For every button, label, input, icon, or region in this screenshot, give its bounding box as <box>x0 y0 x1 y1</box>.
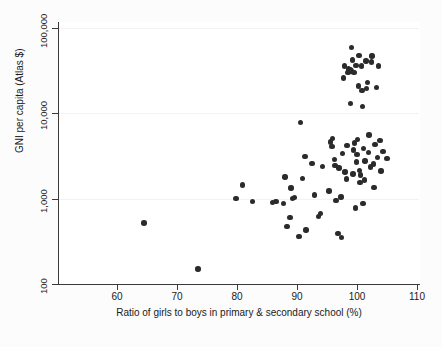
data-point <box>362 177 367 182</box>
x-tick-label-60: 60 <box>97 291 137 302</box>
y-axis-title: GNI per capita (Atlas $) <box>14 49 25 153</box>
data-point <box>375 155 380 160</box>
data-point <box>302 154 307 159</box>
data-point <box>359 63 364 68</box>
y-tick-10000 <box>52 113 58 114</box>
data-point <box>141 220 146 225</box>
data-point <box>371 185 376 190</box>
y-axis-line <box>58 22 59 285</box>
data-point <box>377 138 382 143</box>
data-point <box>309 161 314 166</box>
data-point <box>384 156 389 161</box>
y-tick-label-100000: 100,000 <box>38 14 49 48</box>
gridline-1000 <box>59 199 419 200</box>
x-tick-70 <box>177 285 178 290</box>
data-point <box>329 144 334 149</box>
data-point <box>326 188 331 193</box>
data-point <box>344 143 349 148</box>
data-point <box>284 224 289 229</box>
x-tick-label-100: 100 <box>337 291 377 302</box>
data-point <box>369 59 374 64</box>
y-tick-label-10000: 10,000 <box>38 101 49 130</box>
data-point <box>240 182 245 187</box>
data-point <box>363 58 368 63</box>
data-point <box>362 158 367 163</box>
data-point <box>366 150 371 155</box>
gridline-10000 <box>59 113 419 114</box>
data-point <box>233 196 238 201</box>
data-point <box>281 201 286 206</box>
data-point <box>365 80 370 85</box>
x-tick-label-90: 90 <box>277 291 317 302</box>
y-tick-label-1000: 1,000 <box>38 189 49 213</box>
x-tick-90 <box>297 285 298 290</box>
x-tick-label-70: 70 <box>157 291 197 302</box>
data-point <box>371 161 376 166</box>
data-point <box>353 63 358 68</box>
x-tick-110 <box>417 285 418 290</box>
x-tick-label-110: 110 <box>397 291 437 302</box>
data-point <box>369 53 374 58</box>
data-point <box>350 171 355 176</box>
data-point <box>341 75 346 80</box>
data-point <box>288 185 293 190</box>
gridline-100000 <box>59 28 419 29</box>
data-point <box>376 63 381 68</box>
x-axis-title: Ratio of girls to boys in primary & seco… <box>58 307 420 318</box>
data-point <box>356 53 361 58</box>
x-tick-100 <box>357 285 358 290</box>
data-point <box>353 205 358 210</box>
x-tick-80 <box>237 285 238 290</box>
data-point <box>338 194 343 199</box>
x-tick-60 <box>117 285 118 290</box>
data-point <box>282 174 287 179</box>
data-point <box>342 169 347 174</box>
data-point <box>320 164 325 169</box>
scatter-plot-figure: 100,000 10,000 1,000 100 GNI per capita … <box>0 0 442 347</box>
data-point <box>296 234 301 239</box>
data-point <box>344 176 349 181</box>
data-point <box>273 199 278 204</box>
data-point <box>354 159 359 164</box>
data-point <box>378 168 383 173</box>
data-point <box>303 227 308 232</box>
data-point <box>354 152 359 157</box>
data-point <box>195 266 200 271</box>
data-point <box>330 136 335 141</box>
data-point <box>372 142 377 147</box>
data-point <box>380 149 385 154</box>
data-point <box>351 70 356 75</box>
data-point <box>360 201 365 206</box>
y-tick-100 <box>52 284 58 285</box>
y-tick-100000 <box>52 28 58 29</box>
x-tick-label-80: 80 <box>217 291 257 302</box>
data-point <box>336 165 341 170</box>
y-tick-1000 <box>52 199 58 200</box>
data-point <box>312 192 317 197</box>
x-axis-line <box>58 284 420 285</box>
data-point <box>332 157 337 162</box>
data-point <box>366 132 371 137</box>
data-point <box>287 215 292 220</box>
y-tick-label-100: 100 <box>38 278 49 294</box>
